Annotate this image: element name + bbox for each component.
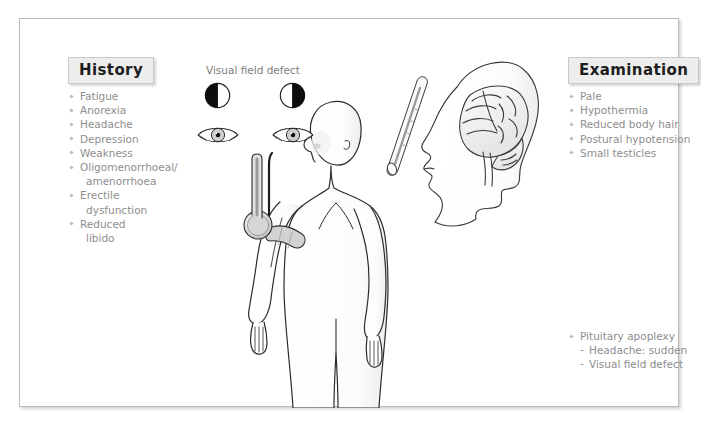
visual-field-defect-caption: Visual field defect: [206, 64, 300, 76]
examination-item: Pale: [569, 89, 690, 103]
visual-field-right-eye-icon: [279, 82, 306, 109]
figure-frame: Visual field defect: [19, 18, 679, 407]
head-brain-icon: [422, 62, 539, 226]
eye-left-icon: [196, 123, 240, 147]
examination-heading: Examination: [568, 57, 699, 84]
history-item: Fatigue: [69, 89, 178, 103]
thermometer-icon: [386, 77, 428, 177]
history-heading: History: [68, 57, 154, 84]
history-item: Depression: [69, 132, 178, 146]
history-item: dysfunction: [69, 203, 178, 217]
history-item: Reduced: [69, 217, 178, 231]
history-item: Headache: [69, 117, 178, 131]
history-item: Anorexia: [69, 103, 178, 117]
examination-item: Postural hypotension: [569, 132, 690, 146]
pituitary-apoplexy-note: Pituitary apoplexyHeadache: suddenVisual…: [569, 329, 687, 372]
infographic-page: Visual field defect: [0, 0, 701, 427]
history-item: Oligomenorrhoeal/: [69, 160, 178, 174]
apoplexy-item: Pituitary apoplexy: [569, 329, 687, 343]
examination-item: Hypothermia: [569, 103, 690, 117]
history-list: FatigueAnorexiaHeadacheDepressionWeaknes…: [69, 89, 178, 245]
apoplexy-item: Visual field defect: [569, 357, 687, 371]
apoplexy-item: Headache: sudden: [569, 343, 687, 357]
visual-field-left-eye-icon: [204, 82, 231, 109]
examination-item: Small testicles: [569, 146, 690, 160]
history-item: amenorrhoea: [69, 174, 178, 188]
examination-list: PaleHypothermiaReduced body hairPostural…: [569, 89, 690, 160]
blood-pressure-cuff-icon: [244, 153, 305, 248]
human-body-back-view-icon: [249, 101, 388, 408]
examination-item: Reduced body hair: [569, 117, 690, 131]
history-item: Weakness: [69, 146, 178, 160]
eye-right-icon: [271, 123, 315, 147]
history-item: libido: [69, 231, 178, 245]
history-item: Erectile: [69, 188, 178, 202]
